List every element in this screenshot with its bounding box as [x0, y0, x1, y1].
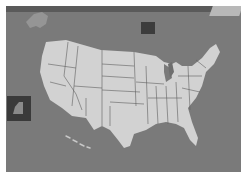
dark-square-tile	[141, 22, 155, 34]
map-photo	[6, 6, 241, 172]
us-map	[6, 6, 241, 172]
inset-shape	[13, 102, 23, 114]
hawaii-islands	[66, 136, 90, 148]
alaska-shape	[26, 12, 48, 28]
contiguous-us-shape	[40, 40, 220, 148]
left-inset-frame	[7, 96, 31, 121]
